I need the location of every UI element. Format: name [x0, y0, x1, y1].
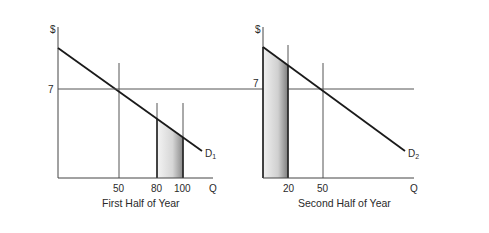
chart-title-left: First Half of Year: [102, 197, 180, 209]
x-tick-100-left: 100: [174, 183, 191, 194]
curve-label-d1-sub: 1: [212, 153, 216, 160]
y-axis-label-right: $: [255, 24, 261, 35]
chart-first-half: $ 7 50 80 100 Q First Half of Year D1: [48, 24, 217, 209]
y-tick-7-left: 7: [48, 84, 54, 95]
x-tick-80-left: 80: [151, 183, 163, 194]
x-axis-label-right: Q: [410, 183, 418, 194]
demand-curve-d1: [58, 48, 202, 151]
chart-title-right: Second Half of Year: [298, 197, 391, 209]
x-axis-label-left: Q: [209, 183, 217, 194]
curve-label-d2-sub: 2: [415, 153, 419, 160]
curve-label-d1-main: D: [205, 148, 212, 159]
curve-label-d2: D2: [408, 148, 419, 160]
curve-label-d1: D1: [205, 148, 216, 160]
x-tick-20-right: 20: [283, 183, 295, 194]
shaded-area-0-20: [263, 47, 288, 178]
chart-second-half: $ 7 20 50 Q Second Half of Year D2: [253, 24, 419, 209]
y-tick-7-right: 7: [253, 78, 259, 89]
x-tick-50-left: 50: [113, 183, 125, 194]
y-axis-label-left: $: [50, 24, 56, 35]
demand-charts-figure: $ 7 50 80 100 Q First Half of Year D1: [0, 0, 489, 233]
curve-label-d2-main: D: [408, 148, 415, 159]
x-tick-50-right: 50: [317, 183, 329, 194]
